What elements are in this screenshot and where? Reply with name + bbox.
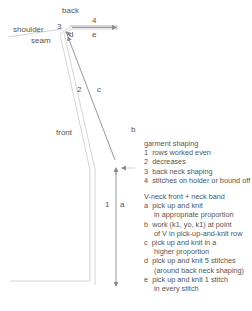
garment-outline-outer <box>64 29 117 285</box>
legend-item-d: d pick up and knit 5 stitches <box>144 256 250 265</box>
label-e: e <box>92 30 96 39</box>
label-2: 2 <box>77 85 81 94</box>
legend-garment-title: garment shaping <box>144 139 250 148</box>
legend-item-e: e pick up and knit 1 stitch <box>144 275 250 284</box>
legend-item-b: b work (k1, yo, k1) at point <box>144 220 250 229</box>
arrow-c <box>68 37 115 160</box>
label-seam: seam <box>31 36 51 45</box>
label-front: front <box>56 128 72 137</box>
label-b: b <box>131 125 135 134</box>
label-1: 1 <box>105 200 109 209</box>
label-3: 3 <box>57 22 61 31</box>
label-shoulder: shoulder <box>13 25 44 34</box>
label-4: 4 <box>92 16 96 25</box>
legend-item-1: 1 rows worked even <box>144 148 250 157</box>
legend: garment shaping 1 rows worked even 2 dec… <box>144 139 250 293</box>
legend-item-4: 4 stitches on holder or bound off <box>144 176 250 185</box>
legend-item-3: 3 back neck shaping <box>144 167 250 176</box>
label-c: c <box>97 85 101 94</box>
legend-item-a: a pick up and knit <box>144 201 250 210</box>
label-d: d <box>69 30 73 39</box>
label-a: a <box>120 200 124 209</box>
legend-item-2: 2 decreases <box>144 157 250 166</box>
legend-item-c: c pick up and knit in a <box>144 238 250 247</box>
label-back: back <box>62 6 79 15</box>
legend-band-title: V-neck front + neck band <box>144 192 250 201</box>
garment-outline-inner <box>10 26 117 281</box>
